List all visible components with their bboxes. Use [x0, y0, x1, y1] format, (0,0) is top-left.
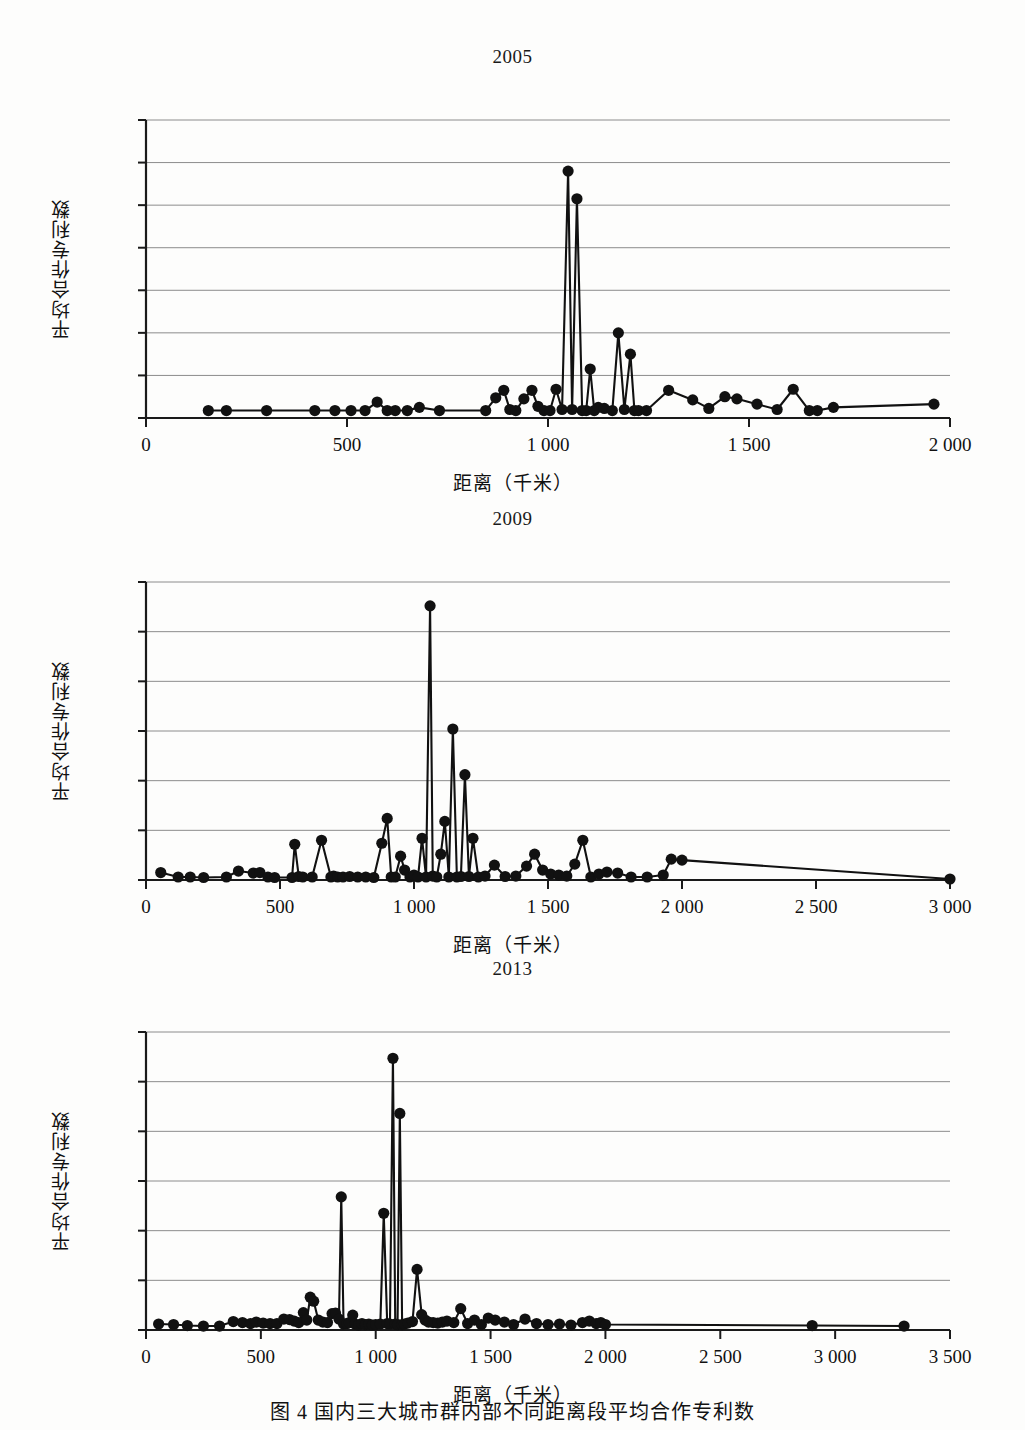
data-point: [807, 1320, 818, 1331]
data-point: [519, 1313, 530, 1324]
chart-title-2005: 2005: [0, 46, 1025, 68]
data-point: [269, 872, 280, 883]
data-point: [585, 363, 596, 374]
data-point: [455, 1303, 466, 1314]
data-point: [601, 866, 612, 877]
data-point: [414, 402, 425, 413]
data-point: [612, 867, 623, 878]
data-point: [467, 833, 478, 844]
data-point: [329, 405, 340, 416]
x-tick-label: 0: [141, 896, 151, 918]
x-tick-label: 1 500: [527, 896, 570, 918]
data-point: [642, 871, 653, 882]
data-point: [898, 1320, 909, 1331]
data-point: [563, 165, 574, 176]
data-point: [387, 1053, 398, 1064]
chart-svg-2013: [0, 980, 1025, 1410]
data-point: [390, 405, 401, 416]
data-point: [719, 391, 730, 402]
x-tick-label: 3 500: [929, 1346, 972, 1368]
y-axis-label: 平均合作专利数: [48, 138, 75, 400]
data-point: [567, 404, 578, 415]
data-point: [569, 859, 580, 870]
y-axis-label: 平均合作专利数: [48, 1050, 75, 1312]
x-tick-label: 1 500: [469, 1346, 512, 1368]
data-point: [261, 405, 272, 416]
data-point: [185, 871, 196, 882]
data-point: [731, 393, 742, 404]
data-point: [613, 327, 624, 338]
data-point: [416, 833, 427, 844]
data-point: [772, 404, 783, 415]
data-point: [435, 849, 446, 860]
data-point: [155, 867, 166, 878]
data-point: [663, 385, 674, 396]
y-axis-label: 平均合作专利数: [48, 600, 75, 862]
data-point: [600, 1319, 611, 1330]
data-point: [309, 405, 320, 416]
data-point: [376, 838, 387, 849]
data-point: [542, 1319, 553, 1330]
data-point: [221, 871, 232, 882]
x-tick-label: 3 000: [814, 1346, 857, 1368]
data-point: [561, 870, 572, 881]
data-point: [214, 1320, 225, 1331]
data-point: [641, 405, 652, 416]
data-point: [788, 384, 799, 395]
data-point: [434, 405, 445, 416]
chart-title-2009: 2009: [0, 508, 1025, 530]
plot-area-2005: 0.02.04.06.08.010.012.014.005001 0001 50…: [0, 68, 1025, 498]
data-point: [395, 851, 406, 862]
data-point: [544, 405, 555, 416]
data-point: [480, 405, 491, 416]
chart-panel-2005: 2005 0.02.04.06.08.010.012.014.005001 00…: [0, 46, 1025, 498]
data-point: [565, 1319, 576, 1330]
data-point: [518, 393, 529, 404]
data-point: [439, 816, 450, 827]
data-point: [203, 405, 214, 416]
data-point: [521, 860, 532, 871]
chart-panel-2013: 2013 0.010.020.030.040.050.060.005001 00…: [0, 958, 1025, 1410]
data-point: [390, 871, 401, 882]
data-point: [510, 405, 521, 416]
data-point: [359, 405, 370, 416]
data-point: [424, 600, 435, 611]
data-point: [198, 1320, 209, 1331]
data-point: [407, 1316, 418, 1327]
data-point: [173, 871, 184, 882]
figure-page: 2005 0.02.04.06.08.010.012.014.005001 00…: [0, 0, 1025, 1430]
series-line: [161, 606, 950, 879]
data-point: [812, 405, 823, 416]
data-point: [153, 1318, 164, 1329]
x-tick-label: 500: [333, 434, 362, 456]
data-point: [448, 1317, 459, 1328]
data-point: [431, 871, 442, 882]
data-point: [411, 1264, 422, 1275]
x-tick-label: 2 000: [661, 896, 704, 918]
data-point: [307, 871, 318, 882]
data-point: [500, 871, 511, 882]
series-line: [208, 171, 934, 410]
data-point: [928, 399, 939, 410]
data-point: [372, 396, 383, 407]
data-point: [676, 855, 687, 866]
data-point: [828, 402, 839, 413]
series-line: [159, 1058, 904, 1326]
data-point: [625, 871, 636, 882]
data-point: [402, 405, 413, 416]
data-point: [221, 405, 232, 416]
data-point: [571, 193, 582, 204]
data-point: [368, 872, 379, 883]
x-tick-label: 1 000: [527, 434, 570, 456]
data-point: [490, 1314, 501, 1325]
chart-svg-2005: [0, 68, 1025, 498]
x-tick-label: 1 000: [354, 1346, 397, 1368]
data-point: [529, 849, 540, 860]
data-point: [658, 869, 669, 880]
data-point: [336, 1191, 347, 1202]
x-axis-label: 距离（千米）: [0, 468, 1025, 495]
x-tick-label: 500: [247, 1346, 276, 1368]
x-tick-label: 500: [266, 896, 295, 918]
x-tick-label: 1 000: [393, 896, 436, 918]
x-tick-label: 3 000: [929, 896, 972, 918]
